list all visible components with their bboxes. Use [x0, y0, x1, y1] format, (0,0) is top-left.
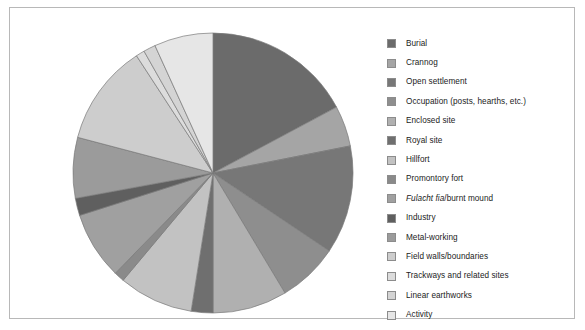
- legend-swatch-icon: [387, 194, 396, 203]
- pie-chart-plot-area: [72, 32, 354, 314]
- legend-item[interactable]: Burial: [387, 34, 582, 53]
- legend-swatch-icon: [387, 59, 396, 68]
- legend-swatch-icon: [387, 252, 396, 261]
- legend-item[interactable]: Linear earthworks: [387, 286, 582, 305]
- legend-swatch-icon: [387, 272, 396, 281]
- legend-item-label: Crannog: [406, 58, 438, 68]
- pie-slice-group: [73, 33, 353, 313]
- legend-item-label: Activity: [406, 310, 432, 320]
- legend-swatch-icon: [387, 214, 396, 223]
- legend-item[interactable]: Trackways and related sites: [387, 267, 582, 286]
- legend-item[interactable]: Crannog: [387, 53, 582, 72]
- legend-item-label: Hillfort: [406, 155, 430, 165]
- pie-chart-svg: [72, 32, 354, 314]
- legend-swatch-icon: [387, 311, 396, 320]
- legend-item-label: Burial: [406, 39, 427, 49]
- chart-legend: BurialCrannogOpen settlementOccupation (…: [387, 34, 582, 325]
- legend-item-label: Field walls/boundaries: [406, 252, 488, 262]
- legend-swatch-icon: [387, 117, 396, 126]
- legend-swatch-icon: [387, 136, 396, 145]
- legend-item-label: Promontory fort: [406, 174, 463, 184]
- legend-swatch-icon: [387, 97, 396, 106]
- legend-swatch-icon: [387, 175, 396, 184]
- legend-item-label: Fulacht fia/burnt mound: [406, 194, 493, 204]
- legend-item-label: Linear earthworks: [406, 291, 472, 301]
- legend-item[interactable]: Royal site: [387, 131, 582, 150]
- legend-swatch-icon: [387, 156, 396, 165]
- legend-item[interactable]: Occupation (posts, hearths, etc.): [387, 92, 582, 111]
- legend-item-label: Occupation (posts, hearths, etc.): [406, 97, 526, 107]
- legend-item-label: Royal site: [406, 136, 442, 146]
- legend-item-label: Metal-working: [406, 233, 458, 243]
- legend-item[interactable]: Activity: [387, 305, 582, 324]
- legend-item[interactable]: Open settlement: [387, 73, 582, 92]
- legend-item[interactable]: Industry: [387, 209, 582, 228]
- legend-item-label: Industry: [406, 213, 436, 223]
- legend-swatch-icon: [387, 233, 396, 242]
- legend-swatch-icon: [387, 39, 396, 48]
- legend-item-label: Trackways and related sites: [406, 271, 509, 281]
- legend-item[interactable]: Metal-working: [387, 228, 582, 247]
- legend-item[interactable]: Fulacht fia/burnt mound: [387, 189, 582, 208]
- figure-frame: BurialCrannogOpen settlementOccupation (…: [9, 7, 575, 319]
- legend-item[interactable]: Field walls/boundaries: [387, 247, 582, 266]
- legend-item[interactable]: Enclosed site: [387, 112, 582, 131]
- legend-item[interactable]: Hillfort: [387, 150, 582, 169]
- legend-swatch-icon: [387, 291, 396, 300]
- legend-item-label: Open settlement: [406, 77, 467, 87]
- legend-item-label: Enclosed site: [406, 116, 455, 126]
- pie-chart-figure: BurialCrannogOpen settlementOccupation (…: [0, 0, 585, 330]
- legend-swatch-icon: [387, 78, 396, 87]
- legend-item[interactable]: Promontory fort: [387, 170, 582, 189]
